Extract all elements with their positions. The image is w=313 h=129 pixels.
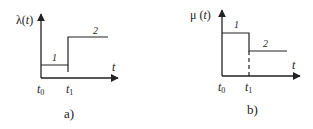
segment-label-1: 1	[52, 52, 57, 63]
tick-t1: t1	[66, 82, 73, 97]
tick-t0: t0	[37, 82, 44, 97]
panel-a: λ(t) 1 2 t t0 t1 a)	[16, 13, 118, 121]
diagram-canvas: λ(t) 1 2 t t0 t1 a) μ (t) 1 2 t t0 t1 b)	[0, 0, 313, 129]
mu-step-curve	[222, 33, 287, 51]
caption-b: b)	[247, 102, 258, 117]
tick-t0: t0	[218, 80, 225, 95]
tick-t1: t1	[245, 80, 252, 95]
y-axis-label: λ(t)	[16, 13, 33, 27]
segment-label-2: 2	[93, 25, 98, 36]
x-axis-label: t	[112, 60, 116, 74]
segment-label-1: 1	[234, 19, 239, 30]
panel-b: μ (t) 1 2 t t0 t1 b)	[190, 8, 300, 117]
y-axis-label: μ (t)	[190, 8, 211, 22]
caption-a: a)	[64, 106, 74, 121]
segment-label-2: 2	[263, 38, 268, 49]
x-axis-label: t	[292, 58, 296, 72]
